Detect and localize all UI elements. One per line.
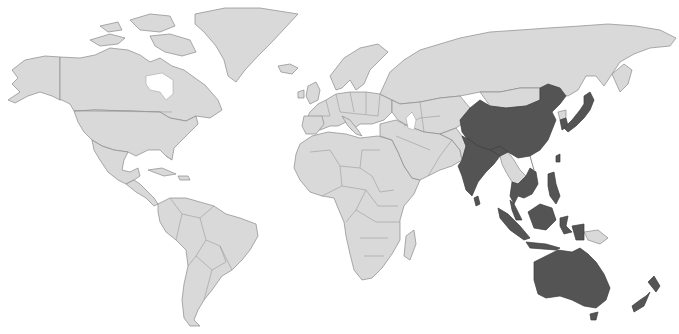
alaska[interactable]	[8, 56, 60, 103]
south-america-land[interactable]	[158, 198, 258, 326]
japan[interactable]	[564, 92, 594, 132]
tasmania[interactable]	[590, 312, 598, 320]
sri-lanka[interactable]	[474, 196, 480, 206]
java[interactable]	[526, 242, 560, 250]
canada[interactable]	[60, 48, 222, 121]
europe	[298, 44, 392, 136]
new-zealand[interactable]	[632, 276, 660, 312]
taiwan[interactable]	[556, 154, 560, 162]
sulawesi[interactable]	[560, 216, 572, 234]
madagascar[interactable]	[404, 230, 416, 260]
papua-new-guinea[interactable]	[584, 230, 608, 244]
australia[interactable]	[534, 248, 610, 308]
iceland[interactable]	[278, 64, 298, 74]
central-america[interactable]	[126, 180, 158, 206]
south-america	[158, 198, 258, 326]
hispaniola[interactable]	[178, 176, 190, 180]
borneo[interactable]	[528, 204, 556, 230]
scandinavia[interactable]	[330, 44, 388, 90]
cuba[interactable]	[148, 168, 176, 176]
north-america	[8, 8, 298, 206]
iberia[interactable]	[302, 116, 324, 134]
malay-peninsula[interactable]	[510, 200, 522, 220]
world-map	[0, 0, 679, 334]
new-guinea-west[interactable]	[572, 224, 584, 240]
philippines[interactable]	[548, 172, 560, 204]
asia-pacific-highlighted	[458, 84, 660, 320]
uk-ireland[interactable]	[298, 82, 320, 104]
